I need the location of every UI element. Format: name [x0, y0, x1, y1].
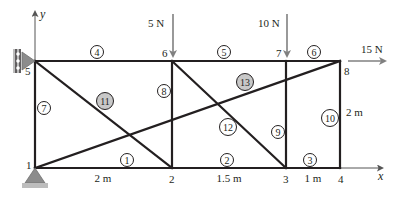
node-labels: 1 2 3 4 5 6 7 8 — [25, 47, 350, 185]
load-label-10N: 10 N — [258, 17, 280, 29]
svg-text:2: 2 — [225, 155, 230, 166]
roller-support-node-5 — [13, 49, 35, 73]
svg-text:5: 5 — [222, 47, 227, 58]
dimension-4-8: 2 m — [346, 106, 363, 118]
svg-text:7: 7 — [42, 103, 47, 114]
svg-text:4: 4 — [95, 47, 100, 58]
loads: 5 N 10 N 15 N — [148, 14, 385, 61]
svg-text:9: 9 — [276, 127, 281, 138]
ground-hatch-icon — [22, 183, 48, 188]
node-label-4: 4 — [338, 173, 344, 185]
roller-wheel-icon — [16, 59, 20, 63]
member-label-5: 5 — [218, 46, 231, 59]
svg-text:13: 13 — [240, 77, 250, 88]
load-label-5N: 5 N — [148, 17, 164, 29]
node-label-8: 8 — [344, 65, 350, 77]
member-label-8: 8 — [158, 85, 171, 98]
member-label-9: 9 — [272, 126, 285, 139]
svg-text:10: 10 — [325, 113, 335, 124]
members — [35, 61, 340, 168]
member-label-7: 7 — [38, 102, 51, 115]
svg-text:8: 8 — [162, 86, 167, 97]
member-label-2: 2 — [221, 154, 234, 167]
svg-text:6: 6 — [312, 47, 317, 58]
dimension-3-4: 1 m — [305, 172, 322, 184]
dimension-2-3: 1.5 m — [216, 172, 242, 184]
y-axis-label: y — [39, 7, 46, 21]
node-label-3: 3 — [283, 173, 289, 185]
svg-text:11: 11 — [100, 96, 110, 107]
roller-wheel-icon — [16, 66, 20, 70]
member-label-3: 3 — [304, 154, 317, 167]
roller-wheel-icon — [16, 52, 20, 56]
member-11 — [35, 61, 172, 168]
member-label-4: 4 — [91, 46, 104, 59]
node-label-7: 7 — [276, 47, 282, 59]
pin-support-node-1 — [22, 168, 48, 188]
svg-text:3: 3 — [308, 155, 313, 166]
member-label-12: 12 — [220, 119, 237, 136]
member-label-10: 10 — [322, 110, 339, 127]
node-label-2: 2 — [169, 173, 175, 185]
node-label-5: 5 — [25, 65, 31, 77]
svg-text:12: 12 — [223, 122, 233, 133]
node-label-6: 6 — [162, 47, 168, 59]
member-labels: 1 2 3 4 5 6 7 8 — [38, 46, 339, 167]
truss-diagram: y x 5 N 10 N 15 N — [0, 0, 395, 197]
dimension-1-2: 2 m — [95, 172, 112, 184]
member-label-6: 6 — [308, 46, 321, 59]
member-label-1: 1 — [121, 154, 134, 167]
x-axis-label: x — [377, 169, 384, 183]
member-label-13: 13 — [237, 74, 254, 91]
member-label-11: 11 — [97, 93, 114, 110]
svg-text:1: 1 — [125, 155, 130, 166]
node-label-1: 1 — [26, 159, 32, 171]
load-label-15N: 15 N — [361, 43, 383, 55]
